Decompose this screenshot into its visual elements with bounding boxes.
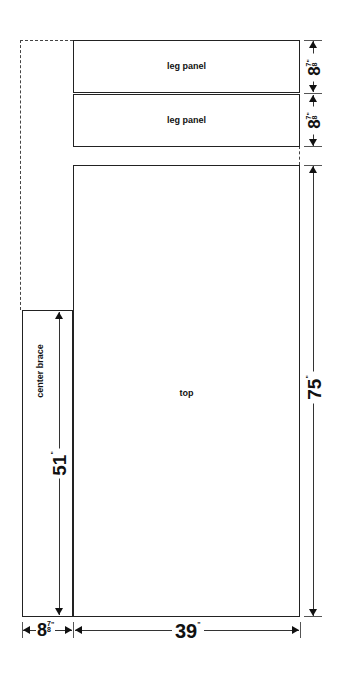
sheet-outline-left: [20, 40, 21, 310]
arrow-left-icon: [75, 626, 82, 634]
leg-panel-1-label: leg panel: [74, 61, 299, 71]
leg-panel-1: leg panel: [73, 40, 300, 93]
sheet-outline-top: [20, 40, 73, 41]
leg-panel-2-dimension: 878": [306, 107, 323, 135]
leg-panel-2: leg panel: [73, 94, 300, 147]
top-width-dimension: 39": [172, 621, 204, 641]
leg-panel-1-dimension: 878": [306, 54, 323, 82]
arrow-down-icon: [309, 85, 317, 92]
arrow-down-icon: [309, 609, 317, 616]
arrow-left-icon: [23, 626, 30, 634]
dim-tick: [304, 93, 322, 94]
top-height-dimension: 75": [305, 372, 324, 404]
arrow-right-icon: [292, 626, 299, 634]
center-brace-height-dimension: 51": [50, 449, 69, 479]
arrow-up-icon: [55, 312, 63, 319]
arrow-down-icon: [55, 608, 63, 615]
center-brace-label: center brace: [35, 336, 45, 406]
arrow-right-icon: [65, 626, 72, 634]
top-panel: top: [73, 165, 300, 617]
leg-panel-2-label: leg panel: [74, 115, 299, 125]
arrow-up-icon: [309, 166, 317, 173]
sheet-outline-right: [299, 146, 300, 165]
center-brace-width-dimension: 878": [36, 621, 55, 639]
arrow-up-icon: [309, 95, 317, 102]
top-panel-label: top: [74, 388, 299, 398]
dim-tick: [304, 616, 322, 617]
dim-tick: [300, 622, 301, 638]
dim-tick: [73, 622, 74, 638]
dim-tick: [304, 146, 322, 147]
arrow-down-icon: [309, 139, 317, 146]
arrow-up-icon: [309, 41, 317, 48]
